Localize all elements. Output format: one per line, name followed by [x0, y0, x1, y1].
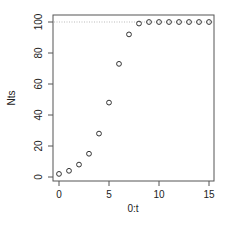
x-tick-label: 5	[106, 189, 112, 200]
x-tick-label: 0	[56, 189, 62, 200]
scatter-chart: 051015 020406080100 0:t Nts	[0, 0, 226, 235]
data-point	[87, 151, 92, 156]
y-tick-label: 0	[33, 174, 44, 180]
data-point	[97, 131, 102, 136]
data-point	[127, 32, 132, 37]
data-point	[117, 61, 122, 66]
data-point	[77, 162, 82, 167]
y-axis: 020406080100	[33, 13, 53, 180]
y-tick-label: 100	[33, 13, 44, 30]
plot-frame	[53, 15, 214, 181]
data-points	[57, 20, 212, 177]
data-point	[107, 100, 112, 105]
y-tick-label: 60	[33, 78, 44, 90]
data-point	[67, 168, 72, 173]
y-axis-label: Nts	[6, 91, 17, 106]
x-tick-label: 10	[153, 189, 165, 200]
x-axis: 051015	[56, 181, 215, 200]
data-point	[57, 172, 62, 177]
y-tick-label: 40	[33, 109, 44, 121]
x-tick-label: 15	[203, 189, 215, 200]
x-axis-label: 0:t	[127, 203, 138, 214]
y-tick-label: 20	[33, 140, 44, 152]
y-tick-label: 80	[33, 47, 44, 59]
